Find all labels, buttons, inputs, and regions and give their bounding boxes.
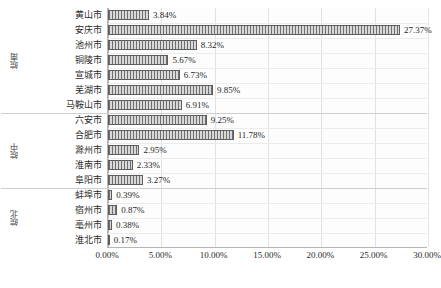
- bar-row[interactable]: 0.87%: [108, 203, 428, 218]
- bar[interactable]: [108, 85, 213, 95]
- bar-row[interactable]: 9.85%: [108, 83, 428, 98]
- category-label: 芜湖市: [75, 83, 102, 98]
- bar-row[interactable]: 3.84%: [108, 8, 428, 23]
- bar-value-label: 27.37%: [404, 23, 432, 37]
- x-tick-label: 5.00%: [149, 250, 172, 260]
- category-label: 淮北市: [75, 233, 102, 248]
- region-group-label: 皖南: [0, 8, 30, 113]
- bar[interactable]: [108, 130, 234, 140]
- bar-value-label: 3.84%: [153, 8, 176, 22]
- x-tick-label: 25.00%: [360, 250, 388, 260]
- bar[interactable]: [108, 40, 197, 50]
- bar-row[interactable]: 11.78%: [108, 128, 428, 143]
- bar-row[interactable]: 27.37%: [108, 23, 428, 38]
- bar-row[interactable]: 0.17%: [108, 233, 428, 248]
- bar-row[interactable]: 8.32%: [108, 38, 428, 53]
- region-group-axis: 皖南皖中皖北: [0, 8, 30, 248]
- bar-value-label: 0.38%: [116, 218, 139, 232]
- x-tick-label: 20.00%: [306, 250, 334, 260]
- category-label: 宿州市: [75, 203, 102, 218]
- region-group-label-text: 皖北: [11, 210, 19, 226]
- bar-value-label: 0.87%: [121, 203, 144, 217]
- bar-row[interactable]: 6.91%: [108, 98, 428, 113]
- gridline: [428, 8, 429, 247]
- bar[interactable]: [108, 25, 400, 35]
- bar-value-label: 3.27%: [147, 173, 170, 187]
- bar[interactable]: [108, 220, 112, 230]
- category-axis: 黄山市安庆市池州市铜陵市宣城市芜湖市马鞍山市六安市合肥市滁州市淮南市阜阳市蚌埠市…: [30, 8, 106, 248]
- bar-value-label: 11.78%: [238, 128, 265, 142]
- bar[interactable]: [108, 205, 117, 215]
- bar-value-label: 0.39%: [116, 188, 139, 202]
- bar[interactable]: [108, 55, 168, 65]
- bar[interactable]: [108, 160, 133, 170]
- bar-row[interactable]: 2.95%: [108, 143, 428, 158]
- bar-value-label: 0.17%: [114, 233, 137, 247]
- bar-row[interactable]: 2.33%: [108, 158, 428, 173]
- bar[interactable]: [108, 115, 207, 125]
- bar[interactable]: [108, 235, 110, 245]
- bar-row[interactable]: 0.39%: [108, 188, 428, 203]
- category-label: 合肥市: [75, 128, 102, 143]
- x-tick-label: 0.00%: [95, 250, 118, 260]
- plot-area: 3.84%27.37%8.32%5.67%6.73%9.85%6.91%9.25…: [107, 8, 427, 248]
- region-group-label: 皖北: [0, 188, 30, 248]
- x-axis-tick-labels: 0.00%5.00%10.00%15.00%20.00%25.00%30.00%: [107, 250, 427, 266]
- bar[interactable]: [108, 100, 182, 110]
- category-label: 滁州市: [75, 143, 102, 158]
- bar-row[interactable]: 3.27%: [108, 173, 428, 188]
- region-group-label-text: 皖中: [11, 143, 19, 159]
- category-label: 铜陵市: [75, 53, 102, 68]
- bar-value-label: 9.25%: [211, 113, 234, 127]
- bar-row[interactable]: 0.38%: [108, 218, 428, 233]
- bar-row[interactable]: 9.25%: [108, 113, 428, 128]
- region-group-label-text: 皖南: [11, 53, 19, 69]
- category-label: 宣城市: [75, 68, 102, 83]
- bar[interactable]: [108, 10, 149, 20]
- bar-value-label: 8.32%: [201, 38, 224, 52]
- bar-row[interactable]: 6.73%: [108, 68, 428, 83]
- category-label: 亳州市: [75, 218, 102, 233]
- x-tick-label: 30.00%: [413, 250, 441, 260]
- x-tick-label: 10.00%: [200, 250, 228, 260]
- category-label: 池州市: [75, 38, 102, 53]
- category-label: 安庆市: [75, 23, 102, 38]
- bar[interactable]: [108, 70, 180, 80]
- category-label: 马鞍山市: [66, 98, 102, 113]
- bar-value-label: 2.95%: [143, 143, 166, 157]
- bar[interactable]: [108, 175, 143, 185]
- category-label: 黄山市: [75, 8, 102, 23]
- bar-value-label: 5.67%: [172, 53, 195, 67]
- bar-value-label: 2.33%: [137, 158, 160, 172]
- category-label: 阜阳市: [75, 173, 102, 188]
- x-tick-label: 15.00%: [253, 250, 281, 260]
- region-group-label: 皖中: [0, 113, 30, 188]
- category-label: 蚌埠市: [75, 188, 102, 203]
- bar[interactable]: [108, 190, 112, 200]
- bar-row[interactable]: 5.67%: [108, 53, 428, 68]
- category-label: 淮南市: [75, 158, 102, 173]
- bar-value-label: 6.73%: [184, 68, 207, 82]
- bar-value-label: 9.85%: [217, 83, 240, 97]
- bar-value-label: 6.91%: [186, 98, 209, 112]
- category-label: 六安市: [75, 113, 102, 128]
- bar[interactable]: [108, 145, 139, 155]
